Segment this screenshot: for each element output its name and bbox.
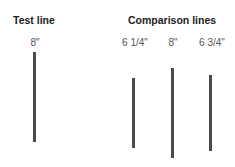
- comparison-line-1-label: 6 1/4": [122, 37, 148, 48]
- comparison-line-3-label: 6 3/4": [199, 37, 225, 48]
- test-line-label: 8": [30, 37, 39, 48]
- comparison-line-2: [171, 68, 174, 158]
- comparison-line-3: [209, 75, 212, 151]
- test-line: [33, 52, 36, 142]
- comparison-line-2-label: 8": [168, 37, 177, 48]
- comparison-line-1: [132, 78, 135, 148]
- comparison-lines-heading: Comparison lines: [128, 14, 216, 26]
- test-line-heading: Test line: [13, 14, 55, 26]
